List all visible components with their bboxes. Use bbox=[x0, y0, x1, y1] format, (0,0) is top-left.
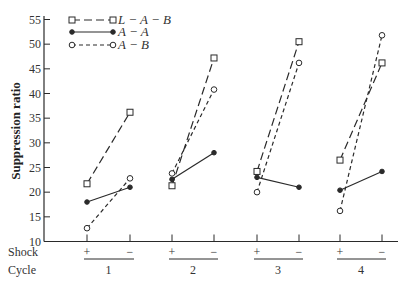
series-ab bbox=[84, 32, 385, 230]
open-circle-marker bbox=[254, 189, 260, 195]
open-circle-marker bbox=[337, 208, 343, 214]
filled-circle-marker bbox=[255, 175, 260, 180]
y-tick-label: 45 bbox=[29, 62, 41, 76]
y-tick-label: 20 bbox=[29, 185, 41, 199]
open-circle-marker bbox=[84, 225, 90, 231]
shock-sign: + bbox=[169, 245, 176, 259]
series-segment bbox=[257, 177, 299, 187]
series-lab bbox=[84, 39, 385, 189]
square-marker bbox=[296, 39, 302, 45]
square-marker bbox=[379, 60, 385, 66]
y-tick-label: 35 bbox=[29, 111, 41, 125]
series-segment bbox=[87, 187, 130, 202]
series-segment bbox=[172, 90, 214, 174]
cycle-number: 3 bbox=[275, 263, 281, 277]
square-marker bbox=[169, 183, 175, 189]
shock-sign: + bbox=[254, 245, 261, 259]
filled-circle-marker bbox=[170, 177, 175, 182]
cycle-number: 2 bbox=[190, 263, 196, 277]
square-marker bbox=[127, 109, 133, 115]
y-tick-label: 40 bbox=[29, 87, 41, 101]
shock-sign: − bbox=[127, 245, 134, 259]
series-group bbox=[84, 32, 385, 230]
square-marker bbox=[211, 55, 217, 61]
shock-sign: + bbox=[337, 245, 344, 259]
open-circle-marker bbox=[211, 87, 217, 93]
cycle-number: 4 bbox=[358, 263, 364, 277]
y-tick-label: 55 bbox=[29, 13, 41, 27]
filled-circle-marker bbox=[212, 150, 217, 155]
filled-circle-marker bbox=[85, 200, 90, 205]
line-chart: 10152025303540455055Suppression ratio L … bbox=[0, 0, 411, 285]
square-marker bbox=[84, 181, 90, 187]
open-circle-marker bbox=[169, 171, 175, 177]
shock-sign: − bbox=[379, 245, 386, 259]
filled-circle-marker bbox=[70, 30, 75, 35]
square-marker bbox=[69, 17, 75, 23]
series-segment bbox=[340, 35, 382, 211]
series-segment bbox=[340, 63, 382, 160]
filled-circle-marker bbox=[111, 30, 116, 35]
open-circle-marker bbox=[110, 42, 116, 48]
shock-sign: + bbox=[84, 245, 91, 259]
square-marker bbox=[254, 168, 260, 174]
square-marker bbox=[110, 17, 116, 23]
y-tick-label: 30 bbox=[29, 136, 41, 150]
series-segment bbox=[257, 63, 299, 192]
y-tick-label: 25 bbox=[29, 161, 41, 175]
shock-sign: − bbox=[296, 245, 303, 259]
filled-circle-marker bbox=[128, 185, 133, 190]
legend-label: A − B bbox=[117, 37, 149, 52]
series-segment bbox=[257, 42, 299, 172]
cycle-number: 1 bbox=[106, 263, 112, 277]
series-segment bbox=[87, 112, 130, 184]
series-segment bbox=[87, 178, 130, 228]
cycle-row-label: Cycle bbox=[8, 263, 36, 277]
shock-row-label: Shock bbox=[8, 245, 38, 259]
y-tick-label: 50 bbox=[29, 37, 41, 51]
open-circle-marker bbox=[379, 32, 385, 38]
open-circle-marker bbox=[127, 176, 133, 182]
x-axis-rows: Shock+−+−+−+−Cycle1234 bbox=[8, 245, 386, 277]
open-circle-marker bbox=[69, 42, 75, 48]
filled-circle-marker bbox=[380, 169, 385, 174]
legend-item: A − B bbox=[69, 37, 149, 52]
square-marker bbox=[337, 157, 343, 163]
open-circle-marker bbox=[296, 60, 302, 66]
y-axis-label: Suppression ratio bbox=[8, 82, 23, 180]
y-tick-label: 15 bbox=[29, 210, 41, 224]
shock-sign: − bbox=[211, 245, 218, 259]
series-segment bbox=[172, 153, 214, 180]
legend: L − A − BA − AA − B bbox=[69, 12, 171, 52]
filled-circle-marker bbox=[338, 188, 343, 193]
series-segment bbox=[340, 171, 382, 190]
filled-circle-marker bbox=[297, 185, 302, 190]
